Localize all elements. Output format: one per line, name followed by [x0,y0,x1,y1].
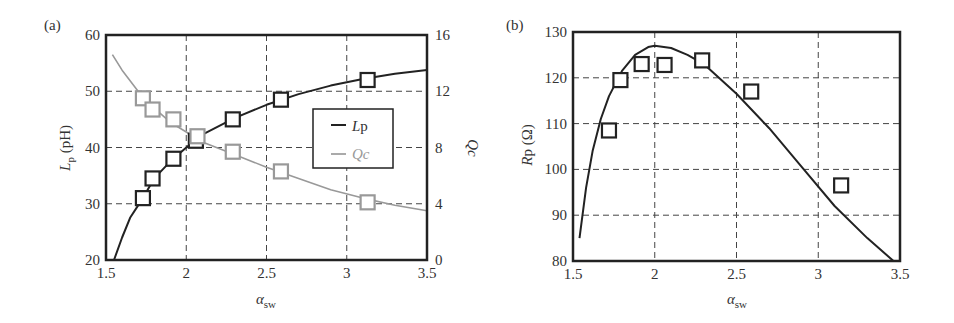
y-tick-label: 130 [545,24,568,40]
data-marker-lp [136,191,150,205]
panel-b-y-axis-label: Rp (Ω) [519,124,536,167]
panel-a-x-axis-label: αsw [256,291,276,310]
data-marker-qc [146,103,160,117]
panel-a-chart: (a) 1.522.533.520304050600481216 Lp (pH)… [44,17,481,310]
x-tick-label: 3 [343,265,351,281]
y-tick-label: 40 [85,140,100,156]
data-marker-rp [613,73,627,87]
data-marker-qc [166,112,180,126]
panel-a-y2-axis-label: Qc [465,139,481,157]
data-marker-rp [602,123,616,137]
data-marker-qc [361,195,375,209]
panel-b-grid [573,32,900,261]
data-marker-rp [834,178,848,192]
x-tick-label: 2 [651,266,659,282]
data-marker-rp [658,58,672,72]
data-marker-rp [695,53,709,67]
panel-a-legend: Lp Qc [313,109,393,168]
x-tick-label: 2.5 [257,265,276,281]
legend-lp-label: Lp [351,118,368,134]
data-marker-rp [744,85,758,99]
panel-a-tag: (a) [44,17,61,34]
y-tick-label: 110 [545,116,567,132]
panel-b-chart: (b) 1.522.533.58090100110120130 Rp (Ω) α… [506,17,909,310]
panel-a-tick-labels: 1.522.533.520304050600481216 [85,27,451,281]
panel-b-x-axis-label: αsw [727,291,747,310]
x-tick-label: 3 [815,266,823,282]
figure: (a) 1.522.533.520304050600481216 Lp (pH)… [0,0,954,323]
data-marker-rp [635,57,649,71]
y-tick-label: 100 [545,161,568,177]
panel-b-markers [602,53,848,192]
data-marker-lp [226,112,240,126]
y2-tick-label: 0 [435,252,443,268]
y2-tick-label: 4 [435,196,443,212]
y2-tick-label: 12 [435,83,450,99]
data-marker-lp [361,73,375,87]
y-tick-label: 80 [552,253,567,269]
data-marker-qc [226,145,240,159]
y2-tick-label: 8 [435,140,443,156]
y-tick-label: 120 [545,70,568,86]
y2-tick-label: 16 [435,27,451,43]
y-tick-label: 50 [85,83,100,99]
y-tick-label: 90 [552,207,567,223]
data-marker-lp [146,171,160,185]
data-marker-lp [274,93,288,107]
x-tick-label: 3.5 [418,265,437,281]
data-marker-lp [166,152,180,166]
y-tick-label: 30 [85,196,100,212]
panel-b-tick-labels: 1.522.533.58090100110120130 [545,24,910,282]
x-tick-label: 2 [183,265,191,281]
panel-b-tag: (b) [506,17,524,34]
legend-qc-label: Qc [352,146,370,162]
y-tick-label: 60 [85,27,100,43]
panel-a-y-axis-label: Lp (pH) [57,125,76,172]
data-marker-qc [274,164,288,178]
y-tick-label: 20 [85,252,100,268]
x-tick-label: 2.5 [727,266,746,282]
x-tick-label: 3.5 [891,266,910,282]
data-marker-qc [190,129,204,143]
